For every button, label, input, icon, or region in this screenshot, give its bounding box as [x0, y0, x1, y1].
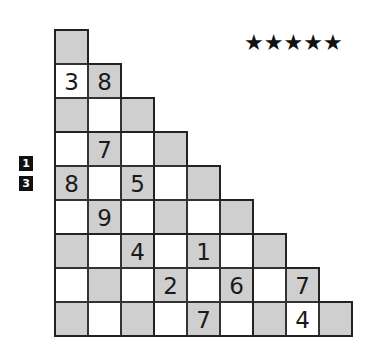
grid-cell[interactable]: [121, 98, 154, 132]
grid-cell[interactable]: [55, 268, 88, 302]
grid-edge: [120, 97, 155, 99]
grid-cell[interactable]: [319, 302, 352, 336]
grid-cell[interactable]: [88, 98, 121, 132]
grid-cell[interactable]: [253, 268, 286, 302]
grid-edge: [318, 301, 353, 303]
block-divider: [153, 131, 155, 337]
grid-edge: [219, 199, 254, 201]
grid-cell[interactable]: [55, 302, 88, 336]
grid-edge: [54, 29, 89, 31]
grid-cell[interactable]: 5: [121, 166, 154, 200]
puzzle-grid: 3878594126774: [0, 0, 378, 364]
grid-edge: [252, 199, 254, 235]
grid-edge: [285, 267, 320, 269]
grid-cell[interactable]: 8: [55, 166, 88, 200]
grid-cell[interactable]: [88, 166, 121, 200]
grid-cell[interactable]: [55, 234, 88, 268]
grid-cell[interactable]: [220, 234, 253, 268]
grid-cell[interactable]: [88, 234, 121, 268]
grid-edge: [120, 63, 122, 99]
grid-edge: [87, 63, 122, 65]
grid-cell[interactable]: [220, 302, 253, 336]
grid-cell[interactable]: [154, 302, 187, 336]
grid-cell[interactable]: 7: [88, 132, 121, 166]
grid-cell[interactable]: [121, 200, 154, 234]
grid-cell[interactable]: [88, 268, 121, 302]
grid-edge: [153, 97, 155, 133]
grid-cell[interactable]: [187, 268, 220, 302]
grid-edge: [87, 29, 89, 65]
grid-cell[interactable]: [121, 132, 154, 166]
grid-cell[interactable]: [88, 302, 121, 336]
grid-cell[interactable]: [253, 302, 286, 336]
grid-cell[interactable]: 7: [286, 268, 319, 302]
grid-cell[interactable]: 3: [55, 64, 88, 98]
grid-cell[interactable]: 4: [121, 234, 154, 268]
grid-cell[interactable]: 1: [187, 234, 220, 268]
grid-cell[interactable]: 7: [187, 302, 220, 336]
grid-cell[interactable]: [154, 200, 187, 234]
grid-cell[interactable]: [121, 302, 154, 336]
grid-cell[interactable]: [187, 200, 220, 234]
block-divider: [54, 131, 155, 133]
grid-cell[interactable]: [154, 132, 187, 166]
grid-cell[interactable]: [55, 98, 88, 132]
grid-cell[interactable]: 2: [154, 268, 187, 302]
grid-edge: [219, 165, 221, 201]
block-divider: [54, 29, 56, 337]
grid-cell[interactable]: [55, 200, 88, 234]
grid-cell[interactable]: [121, 268, 154, 302]
grid-cell[interactable]: 6: [220, 268, 253, 302]
grid-cell[interactable]: [154, 166, 187, 200]
grid-edge: [186, 131, 188, 167]
grid-edge: [153, 131, 188, 133]
grid-edge: [351, 301, 353, 337]
block-divider: [54, 335, 353, 337]
block-divider: [252, 233, 254, 337]
grid-cell[interactable]: [55, 132, 88, 166]
grid-cell[interactable]: 8: [88, 64, 121, 98]
grid-cell[interactable]: [187, 166, 220, 200]
grid-edge: [285, 233, 287, 269]
grid-edge: [318, 267, 320, 303]
grid-cell[interactable]: [253, 234, 286, 268]
grid-cell[interactable]: [220, 200, 253, 234]
grid-cell[interactable]: [154, 234, 187, 268]
grid-edge: [186, 165, 221, 167]
grid-cell[interactable]: 4: [286, 302, 319, 336]
grid-cell[interactable]: 9: [88, 200, 121, 234]
grid-cell[interactable]: [55, 30, 88, 64]
grid-edge: [252, 233, 287, 235]
